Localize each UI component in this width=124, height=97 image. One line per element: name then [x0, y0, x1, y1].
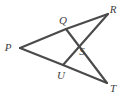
- segment-p-u: [20, 48, 63, 65]
- geometry-figure: PQRSUT: [0, 0, 124, 97]
- vertex-label-p: P: [5, 42, 12, 53]
- vertex-label-s: S: [79, 46, 85, 57]
- vertex-label-t: T: [110, 83, 116, 94]
- vertex-label-r: R: [110, 4, 117, 15]
- segment-p-q: [20, 29, 66, 48]
- vertex-label-u: U: [57, 70, 65, 81]
- vertex-label-q: Q: [59, 15, 67, 26]
